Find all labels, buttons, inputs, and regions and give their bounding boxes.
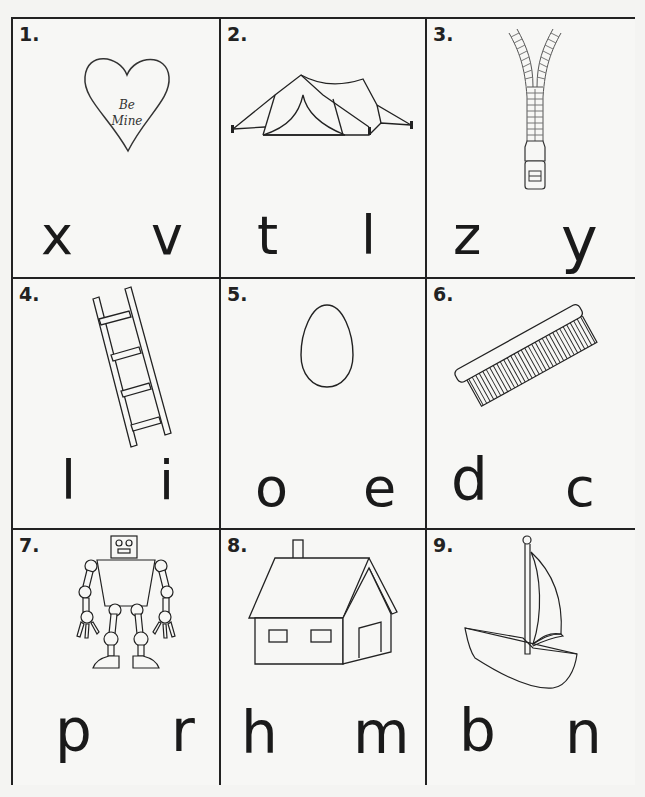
cell-2-tent: 2. t l — [221, 19, 427, 279]
letter-choice-right[interactable]: m — [353, 704, 410, 762]
letter-choice-left[interactable]: x — [41, 209, 73, 263]
letter-choice-right[interactable]: y — [561, 209, 598, 271]
cell-5-egg: 5. o e — [221, 279, 427, 530]
sailboat-icon — [463, 534, 599, 694]
cell-number: 9. — [433, 534, 453, 556]
egg-icon — [299, 303, 355, 389]
zipper-icon — [505, 27, 565, 195]
letter-choice-left[interactable]: z — [453, 209, 481, 263]
letter-choice-right[interactable]: l — [361, 209, 376, 263]
letter-choice-left[interactable]: h — [241, 704, 278, 762]
letter-choice-right[interactable]: e — [363, 461, 396, 515]
cell-number: 2. — [227, 23, 247, 45]
cell-4-ladder: 4. l i — [13, 279, 221, 530]
worksheet-grid: 1. Be Mine x v 2. t — [11, 17, 635, 785]
cell-8-house: 8. h m — [221, 530, 427, 785]
cell-number: 8. — [227, 534, 247, 556]
tent-icon — [229, 65, 419, 141]
letter-choice-right[interactable]: i — [159, 454, 174, 508]
ladder-icon — [89, 285, 173, 453]
svg-text:Be: Be — [118, 98, 135, 112]
letter-choice-right[interactable]: c — [565, 461, 595, 515]
house-icon — [247, 536, 401, 672]
cell-number: 4. — [19, 283, 39, 305]
heart-icon: Be Mine — [79, 47, 175, 155]
cell-6-comb: 6. d c — [427, 279, 635, 530]
cell-3-zipper: 3. — [427, 19, 635, 279]
svg-text:Mine: Mine — [111, 114, 143, 128]
cell-number: 5. — [227, 283, 247, 305]
letter-choice-left[interactable]: o — [255, 461, 288, 515]
cell-number: 3. — [433, 23, 453, 45]
letter-choice-right[interactable]: r — [171, 702, 195, 760]
letter-choice-left[interactable]: t — [257, 209, 278, 263]
letter-choice-right[interactable]: v — [151, 209, 183, 263]
cell-number: 7. — [19, 534, 39, 556]
letter-choice-left[interactable]: p — [55, 702, 92, 760]
letter-choice-left[interactable]: b — [459, 702, 496, 760]
cell-9-sailboat: 9. b n — [427, 530, 635, 785]
cell-number: 1. — [19, 23, 39, 45]
letter-choice-left[interactable]: l — [61, 454, 76, 508]
cell-1-heart: 1. Be Mine x v — [13, 19, 221, 279]
letter-choice-right[interactable]: n — [565, 704, 602, 762]
robot-icon — [73, 534, 185, 674]
cell-7-robot: 7. p r — [13, 530, 221, 785]
comb-icon — [449, 295, 599, 411]
letter-choice-left[interactable]: d — [451, 451, 488, 509]
